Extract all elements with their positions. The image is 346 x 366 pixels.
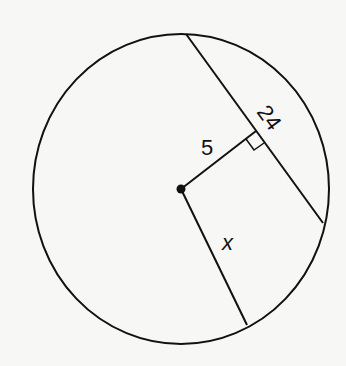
radius-segment bbox=[181, 189, 247, 325]
chord bbox=[186, 34, 323, 223]
label-5: 5 bbox=[201, 135, 213, 160]
perpendicular-segment bbox=[181, 131, 256, 189]
circle-diagram: 5 24 x bbox=[0, 0, 346, 366]
label-x: x bbox=[221, 230, 234, 255]
right-angle-marker bbox=[246, 139, 264, 150]
label-24: 24 bbox=[252, 100, 287, 135]
center-point bbox=[177, 185, 186, 194]
